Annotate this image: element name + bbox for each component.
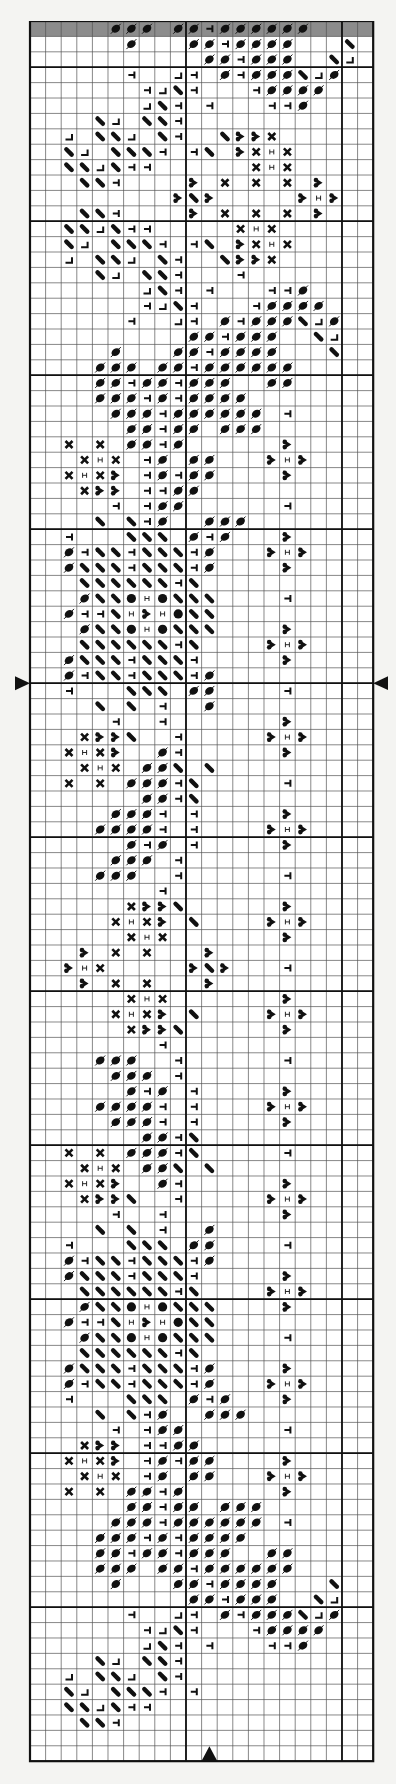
filled-circle-icon xyxy=(158,1333,167,1342)
filled-circle-icon xyxy=(158,594,167,603)
filled-circle-icon xyxy=(158,1302,167,1311)
left-center-arrow-icon xyxy=(15,676,30,690)
pattern-grid xyxy=(15,21,388,1781)
filled-circle-icon xyxy=(174,1318,183,1327)
filled-circle-icon xyxy=(127,594,136,603)
right-center-arrow-icon xyxy=(373,676,388,690)
filled-circle-icon xyxy=(127,625,136,634)
cross-stitch-chart xyxy=(30,21,388,1781)
filled-circle-icon xyxy=(158,625,167,634)
filled-circle-icon xyxy=(127,1302,136,1311)
filled-circle-icon xyxy=(174,609,183,618)
filled-circle-icon xyxy=(127,1333,136,1342)
